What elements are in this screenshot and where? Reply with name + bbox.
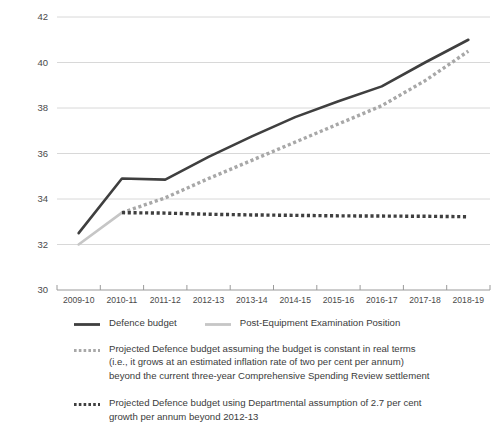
y-axis-tick-label: 30 [37,284,48,295]
series-line-2 [122,51,468,213]
legend-label-projected-departmental: Projected Defence budget using Departmen… [109,396,422,423]
x-axis-tick-label: 2014-15 [279,295,311,305]
x-axis-tick-label: 2010-11 [106,295,137,305]
solid-dark-line-icon [74,319,100,330]
x-axis-tick-label: 2018-19 [453,295,485,305]
legend-label-post-equipment: Post-Equipment Examination Position [240,316,401,329]
series-line-0 [79,40,469,233]
legend-item-projected-departmental[interactable]: Projected Defence budget using Departmen… [74,396,422,423]
y-axis-tick-label: 42 [37,11,48,22]
legend-row-projected-real-terms: Projected Defence budget assuming the bu… [0,342,501,382]
dashed-gray-line-icon [74,345,100,356]
y-axis-tick-label: 40 [37,57,48,68]
legend-row-primary: Defence budget Post-Equipment Examinatio… [0,316,501,330]
defence-budget-line-chart: 303234363840422009-102010-112011-122012-… [0,0,501,431]
legend-item-defence-budget[interactable]: Defence budget [74,316,177,330]
chart-legend: Defence budget Post-Equipment Examinatio… [0,316,501,425]
x-axis-tick-label: 2011-12 [150,295,181,305]
dotted-dark-line-icon [74,399,100,410]
x-axis-tick-label: 2009-10 [63,295,95,305]
legend-line: Projected Defence budget assuming the bu… [109,342,430,355]
x-axis-tick-label: 2013-14 [236,295,268,305]
y-axis-tick-label: 34 [37,193,48,204]
y-axis-tick-label: 38 [37,102,48,113]
x-axis-tick-label: 2017-18 [409,295,441,305]
x-axis-tick-label: 2015-16 [323,295,355,305]
x-axis-tick-label: 2012-13 [193,295,225,305]
legend-row-projected-departmental: Projected Defence budget using Departmen… [0,396,501,423]
legend-item-post-equipment[interactable]: Post-Equipment Examination Position [205,316,401,330]
legend-item-projected-real-terms[interactable]: Projected Defence budget assuming the bu… [74,342,430,382]
legend-label-projected-real-terms: Projected Defence budget assuming the bu… [109,342,430,382]
legend-line: (i.e., it grows at an estimated inflatio… [109,355,430,368]
series-line-3 [122,213,468,217]
x-axis-tick-label: 2016-17 [366,295,398,305]
y-axis-tick-label: 36 [37,148,48,159]
legend-line: growth per annum beyond 2012-13 [109,410,422,423]
legend-label-defence-budget: Defence budget [109,316,177,329]
legend-line: Projected Defence budget using Departmen… [109,396,422,409]
solid-light-line-icon [205,319,231,330]
legend-line: beyond the current three-year Comprehens… [109,369,430,382]
series-line-1 [79,213,122,245]
y-axis-tick-label: 32 [37,239,48,250]
